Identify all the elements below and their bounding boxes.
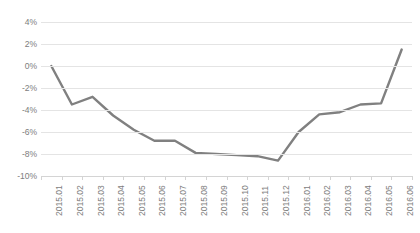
gridline	[41, 44, 412, 45]
x-axis-tick	[62, 176, 63, 180]
x-axis-tick	[165, 176, 166, 180]
y-axis-tick-label: -4%	[0, 106, 41, 115]
x-axis-tick	[288, 176, 289, 180]
y-axis-tick-label: 2%	[0, 40, 41, 49]
x-axis-tick-label: 2015.12	[282, 185, 291, 216]
plot-area	[41, 22, 412, 176]
x-axis-tick	[330, 176, 331, 180]
x-axis-tick-label: 2015.07	[179, 185, 188, 216]
gridline	[41, 88, 412, 89]
gridline	[41, 132, 412, 133]
x-axis-tick	[123, 176, 124, 180]
x-axis-tick-label: 2015.10	[241, 185, 250, 216]
x-axis-tick	[309, 176, 310, 180]
x-axis-tick-label: 2015.08	[200, 185, 209, 216]
x-axis-tick	[247, 176, 248, 180]
x-axis-tick	[206, 176, 207, 180]
x-axis-tick	[103, 176, 104, 180]
x-axis-tick	[268, 176, 269, 180]
x-axis-tick-label: 2015.04	[117, 185, 126, 216]
x-axis-tick-label: 2015.06	[158, 185, 167, 216]
x-axis-tick	[185, 176, 186, 180]
gridline	[41, 110, 412, 111]
gridline	[41, 22, 412, 23]
x-axis-tick-label: 2016.04	[364, 185, 373, 216]
x-axis-tick	[350, 176, 351, 180]
y-axis-tick-label: -2%	[0, 84, 41, 93]
x-axis-tick-label: 2015.11	[261, 186, 270, 216]
x-axis-tick	[227, 176, 228, 180]
gridline	[41, 66, 412, 67]
x-axis-tick-label: 2016.01	[303, 185, 312, 216]
x-axis-tick-label: 2016.05	[385, 185, 394, 216]
x-axis-tick	[41, 176, 42, 180]
x-axis-tick-label: 2016.06	[406, 185, 415, 216]
x-axis-tick	[371, 176, 372, 180]
x-axis-tick-label: 2016.03	[344, 185, 353, 216]
y-axis-tick-label: 0%	[0, 62, 41, 71]
data-series-line	[41, 22, 412, 176]
x-axis-tick-label: 2015.02	[76, 185, 85, 216]
x-axis-tick	[412, 176, 413, 180]
x-axis-tick	[82, 176, 83, 180]
y-axis-tick-label: 4%	[0, 18, 41, 27]
x-axis-tick-label: 2015.01	[55, 185, 64, 216]
x-axis-tick-label: 2015.03	[97, 185, 106, 216]
x-axis-tick	[391, 176, 392, 180]
line-chart: 4%2%0%-2%-4%-6%-8%-10% 2015.012015.02201…	[0, 0, 420, 233]
x-axis-tick-label: 2015.05	[138, 185, 147, 216]
x-axis-tick-label: 2016.02	[323, 185, 332, 216]
y-axis-tick-labels: 4%2%0%-2%-4%-6%-8%-10%	[0, 0, 41, 233]
gridline	[41, 154, 412, 155]
y-axis-tick-label: -6%	[0, 128, 41, 137]
y-axis-tick-label: -10%	[0, 172, 41, 181]
y-axis-tick-label: -8%	[0, 150, 41, 159]
x-axis-tick-label: 2015.09	[220, 185, 229, 216]
x-axis-tick	[144, 176, 145, 180]
